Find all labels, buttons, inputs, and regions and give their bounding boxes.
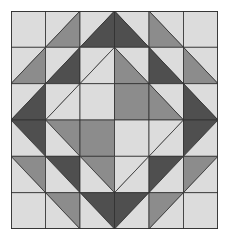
quilt-square	[11, 11, 46, 47]
quilt-square	[80, 120, 115, 156]
quilt-square	[80, 84, 115, 120]
quilt-square	[184, 11, 219, 47]
quilt-square	[115, 120, 150, 156]
quilt-grid	[11, 11, 218, 229]
quilt-block	[11, 11, 218, 229]
quilt-square	[11, 193, 46, 229]
quilt-square	[115, 84, 150, 120]
quilt-square	[184, 193, 219, 229]
